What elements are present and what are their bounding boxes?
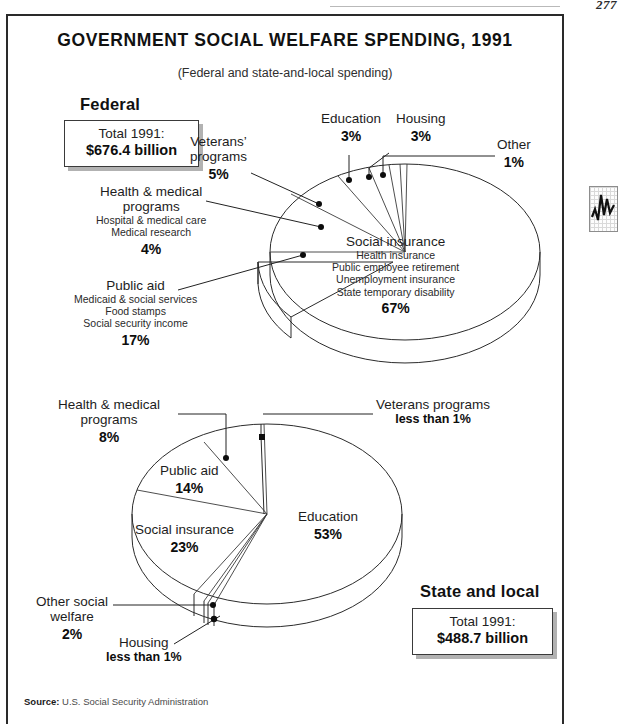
state-local-total-label: Total 1991:: [425, 614, 540, 630]
state-local-label-health-medical: Health & medical programs 8%: [58, 397, 160, 448]
page-number: 277: [596, 0, 617, 13]
state-local-label-other-social-welfare: Other social welfare 2%: [36, 594, 108, 645]
federal-total-label: Total 1991:: [77, 126, 186, 142]
federal-label-health-medical: Health & medical programs Hospital & med…: [96, 184, 206, 260]
line-chart-icon-glyph: [590, 187, 617, 231]
header-rule: [330, 6, 560, 7]
state-local-label-education: Education 53%: [298, 509, 358, 545]
federal-label-public-aid: Public aid Medicaid & social services Fo…: [74, 278, 197, 351]
line-chart-icon: [589, 186, 618, 232]
figure-title: GOVERNMENT SOCIAL WELFARE SPENDING, 1991: [8, 30, 562, 51]
federal-total-box: Total 1991: $676.4 billion: [64, 120, 199, 167]
source-note: Source: U.S. Social Security Administrat…: [24, 696, 208, 707]
state-local-label-housing: Housing less than 1%: [106, 635, 182, 666]
state-local-label-social-insurance: Social insurance 23%: [135, 522, 234, 558]
federal-label-veterans: Veterans’ programs 5%: [190, 134, 247, 185]
federal-section-heading: Federal: [80, 95, 140, 114]
source-text: U.S. Social Security Administration: [62, 696, 208, 707]
state-local-section-heading: State and local: [420, 582, 539, 601]
figure-frame: GOVERNMENT SOCIAL WELFARE SPENDING, 1991…: [6, 14, 564, 724]
federal-label-education: Education 3%: [321, 111, 381, 147]
state-local-total-box: Total 1991: $488.7 billion: [412, 608, 553, 655]
federal-label-social-insurance: Social insurance Health insurance Public…: [332, 234, 459, 319]
state-local-label-public-aid: Public aid 14%: [160, 463, 219, 499]
federal-total-value: $676.4 billion: [77, 142, 186, 159]
source-label: Source:: [24, 696, 59, 707]
state-local-label-veterans: Veterans programs less than 1%: [376, 397, 490, 428]
federal-label-other: Other 1%: [497, 137, 531, 173]
figure-subtitle: (Federal and state-and-local spending): [8, 66, 562, 80]
federal-label-housing: Housing 3%: [396, 111, 446, 147]
state-local-total-value: $488.7 billion: [425, 630, 540, 647]
